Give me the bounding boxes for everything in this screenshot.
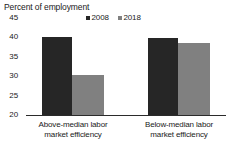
y-axis-tick-35: 35 [0, 53, 18, 61]
x-axis-line [26, 115, 226, 116]
category-label-line: market efficiency [124, 130, 230, 140]
bar-2008-group-2 [148, 38, 178, 115]
bar-2018-group-2 [178, 43, 210, 115]
category-label-line: Below-median labor [124, 120, 230, 130]
chart-title: Percent of employment [4, 2, 89, 12]
bar-2018-group-1 [72, 75, 104, 115]
plot-area: 454035302520 [26, 18, 226, 116]
category-label-1: Above-median labormarket efficiency [18, 120, 128, 140]
y-axis-tick-40: 40 [0, 33, 18, 41]
category-label-line: market efficiency [18, 130, 128, 140]
bar-chart: Percent of employment 2008 2018 45403530… [0, 0, 230, 146]
category-label-2: Below-median labormarket efficiency [124, 120, 230, 140]
y-axis-tick-45: 45 [0, 14, 18, 22]
y-axis-tick-20: 20 [0, 111, 18, 119]
bar-2008-group-1 [42, 37, 72, 115]
y-axis-tick-30: 30 [0, 72, 18, 80]
y-axis-tick-25: 25 [0, 92, 18, 100]
category-label-line: Above-median labor [18, 120, 128, 130]
